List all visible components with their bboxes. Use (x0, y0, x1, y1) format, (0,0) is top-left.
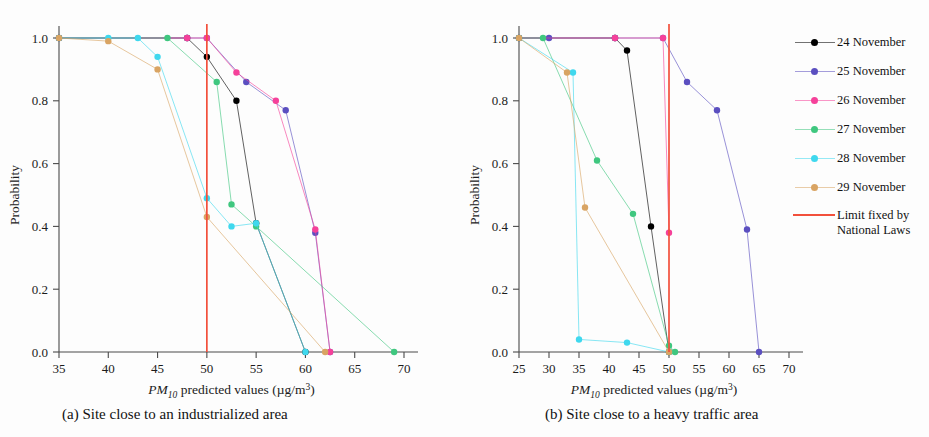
x-tick-label: 35 (573, 361, 586, 376)
x-axis-title: PM10 predicted values (µg/m3) (147, 382, 314, 400)
data-point (214, 79, 220, 85)
data-point (322, 349, 328, 355)
data-point (105, 38, 111, 44)
data-point (570, 69, 576, 75)
x-tick-label: 65 (348, 361, 361, 376)
legend-key-limit-line (793, 208, 837, 222)
legend-label: 29 November (837, 180, 905, 195)
x-tick-label: 70 (398, 361, 411, 376)
data-point (564, 69, 570, 75)
legend-label: 24 November (837, 35, 905, 50)
x-tick-label: 40 (102, 361, 115, 376)
legend-item-24-november: 24 November (793, 28, 929, 57)
caption-panel-a: (a) Site close to an industrialized area (62, 406, 288, 423)
data-point (594, 157, 600, 163)
data-point (684, 79, 690, 85)
y-axis-title: Probability (467, 165, 482, 225)
data-point (756, 349, 762, 355)
data-point (648, 223, 654, 229)
series-line-24-november (519, 38, 669, 352)
series-line-27-november (59, 38, 394, 352)
y-tick-label: 0.8 (32, 93, 48, 108)
x-tick-label: 50 (663, 361, 676, 376)
legend-key-25-november (793, 65, 837, 79)
data-point (624, 339, 630, 345)
y-tick-label: 0.6 (492, 156, 509, 171)
series-line-29-november (59, 38, 325, 352)
y-tick-label: 1.0 (32, 31, 48, 46)
legend-item-26-november: 26 November (793, 86, 929, 115)
series-line-26-november (519, 38, 669, 233)
y-tick-label: 0.0 (32, 345, 48, 360)
legend-key-29-november (793, 181, 837, 195)
legend-label: 28 November (837, 151, 905, 166)
legend-item-27-november: 27 November (793, 115, 929, 144)
x-tick-label: 60 (723, 361, 736, 376)
data-point (154, 54, 160, 60)
y-tick-label: 0.2 (32, 282, 48, 297)
legend-key-27-november (793, 123, 837, 137)
x-tick-label: 30 (543, 361, 556, 376)
data-point (233, 98, 239, 104)
y-axis-title: Probability (7, 165, 22, 225)
x-tick-label: 40 (603, 361, 616, 376)
data-point (154, 66, 160, 72)
x-tick-label: 65 (753, 361, 766, 376)
legend-key-28-november (793, 152, 837, 166)
y-tick-label: 0.4 (32, 219, 49, 234)
series-line-24-november (59, 38, 305, 352)
series-line-27-november (519, 38, 675, 352)
data-point (312, 226, 318, 232)
data-point (516, 35, 522, 41)
caption-panel-b: (b) Site close to a heavy traffic area (545, 406, 758, 423)
legend-item-limit: Limit fixed byNational Laws (793, 208, 929, 237)
x-axis-title: PM10 predicted values (µg/m3) (570, 382, 737, 400)
x-tick-label: 70 (783, 361, 796, 376)
data-point (228, 201, 234, 207)
y-tick-label: 0.6 (32, 156, 49, 171)
data-point (228, 223, 234, 229)
data-point (714, 107, 720, 113)
x-tick-label: 55 (693, 361, 706, 376)
series-line-25-november (519, 38, 759, 352)
legend: 24 November25 November26 November27 Nove… (793, 28, 929, 237)
data-point (576, 336, 582, 342)
y-tick-label: 0.0 (492, 345, 508, 360)
data-point (56, 35, 62, 41)
data-point (672, 349, 678, 355)
data-point (540, 35, 546, 41)
legend-label-limit-line1: Limit fixed by (837, 208, 910, 223)
legend-label-limit: Limit fixed byNational Laws (837, 208, 910, 237)
legend-item-29-november: 29 November (793, 173, 929, 202)
chart-panel-a: 0.00.20.40.60.81.03540455055606570Probab… (0, 0, 470, 400)
data-point (283, 107, 289, 113)
chart-svg-a: 0.00.20.40.60.81.03540455055606570Probab… (0, 0, 470, 400)
legend-label: 26 November (837, 93, 905, 108)
x-tick-label: 25 (513, 361, 526, 376)
legend-key-26-november (793, 94, 837, 108)
data-point (184, 35, 190, 41)
legend-label: 25 November (837, 64, 905, 79)
y-tick-label: 0.8 (492, 93, 508, 108)
data-point (660, 35, 666, 41)
x-tick-label: 45 (633, 361, 646, 376)
legend-label-limit-line2: National Laws (837, 223, 910, 238)
series-line-25-november (59, 38, 330, 352)
x-tick-label: 35 (53, 361, 66, 376)
data-point (164, 35, 170, 41)
legend-item-25-november: 25 November (793, 57, 929, 86)
data-point (630, 211, 636, 217)
chart-panel-b: 0.00.20.40.60.81.025303540455055606570Pr… (460, 0, 800, 400)
legend-key-24-november (793, 36, 837, 50)
data-point (302, 349, 308, 355)
legend-label: 27 November (837, 122, 905, 137)
chart-svg-b: 0.00.20.40.60.81.025303540455055606570Pr… (460, 0, 800, 400)
series-line-28-november (59, 38, 305, 352)
data-point (273, 98, 279, 104)
x-tick-label: 55 (250, 361, 263, 376)
data-point (135, 35, 141, 41)
data-point (253, 220, 259, 226)
y-tick-label: 1.0 (492, 31, 508, 46)
y-tick-label: 0.4 (492, 219, 509, 234)
y-tick-label: 0.2 (492, 282, 508, 297)
